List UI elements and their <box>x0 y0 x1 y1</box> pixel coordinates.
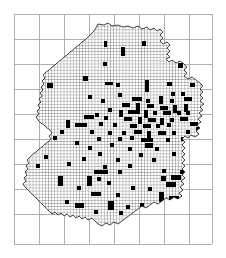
occurrence-cell <box>77 186 81 190</box>
occurrence-cell <box>97 137 101 141</box>
occurrence-cell <box>75 141 79 145</box>
occurrence-cell <box>177 111 181 115</box>
occurrence-cell <box>84 115 94 119</box>
occurrence-cell <box>178 63 183 68</box>
occurrence-cell <box>103 62 107 66</box>
occurrence-cell <box>101 99 105 103</box>
occurrence-cell <box>146 99 150 103</box>
occurrence-cell <box>190 122 198 126</box>
occurrence-cell <box>181 92 185 96</box>
occurrence-cell <box>116 83 120 87</box>
occurrence-cell <box>160 106 168 110</box>
occurrence-cell <box>90 130 94 134</box>
occurrence-cell <box>156 124 160 128</box>
occurrence-cell <box>167 82 172 86</box>
occurrence-cell <box>99 122 103 126</box>
occurrence-cell <box>162 169 166 173</box>
occurrence-cell <box>184 104 188 112</box>
occurrence-cell <box>190 83 195 87</box>
occurrence-cell <box>148 118 156 122</box>
occurrence-cell <box>122 131 126 135</box>
occurrence-cell <box>87 176 92 186</box>
occurrence-cell <box>153 111 157 115</box>
occurrence-cell <box>130 124 137 128</box>
occurrence-cell <box>98 152 102 156</box>
occurrence-cell <box>119 110 123 117</box>
occurrence-cell <box>44 155 48 159</box>
occurrence-cell <box>75 203 84 208</box>
occurrence-cell <box>94 210 98 214</box>
occurrence-cell <box>119 211 123 215</box>
occurrence-cell <box>173 105 177 113</box>
occurrence-cell <box>36 164 40 168</box>
occurrence-cell <box>139 153 143 157</box>
occurrence-cell <box>53 136 57 140</box>
occurrence-cell <box>83 76 88 81</box>
occurrence-cell <box>132 97 142 101</box>
occurrence-cell <box>128 147 132 151</box>
occurrence-cell <box>126 205 130 209</box>
occurrence-cell <box>155 147 159 151</box>
occurrence-cell <box>91 192 101 196</box>
occurrence-cell <box>131 186 135 190</box>
occurrence-cell <box>128 164 132 168</box>
occurrence-cell <box>121 47 125 56</box>
occurrence-cell <box>145 80 149 92</box>
occurrence-cell <box>75 123 87 127</box>
occurrence-cell <box>104 116 108 120</box>
occurrence-cell <box>58 176 63 186</box>
occurrence-cell <box>166 138 170 142</box>
occurrence-cell <box>138 117 142 124</box>
occurrence-cell <box>108 201 114 210</box>
occurrence-cell <box>158 131 166 135</box>
occurrence-cell <box>118 170 122 174</box>
occurrence-cell <box>171 92 175 96</box>
occurrence-cell <box>184 97 192 101</box>
occurrence-cell <box>145 143 153 148</box>
occurrence-cell <box>134 130 142 134</box>
occurrence-cell <box>47 83 53 88</box>
occurrence-cell <box>147 104 154 108</box>
occurrence-cell <box>172 131 176 135</box>
occurrence-cell <box>110 143 114 147</box>
occurrence-cell <box>159 96 163 104</box>
occurrence-cell <box>65 200 69 204</box>
occurrence-cell <box>116 158 120 162</box>
occurrence-cell <box>142 41 146 46</box>
occurrence-cell <box>113 123 117 127</box>
occurrence-cell <box>148 187 152 191</box>
occurrence-cell <box>94 170 108 174</box>
occurrence-cell <box>118 93 122 97</box>
occurrence-cell <box>163 111 171 115</box>
map-canvas <box>0 0 226 258</box>
occurrence-cell <box>186 111 190 115</box>
occurrence-cell <box>97 177 101 181</box>
occurrence-cell <box>130 136 134 140</box>
occurrence-cell <box>172 152 176 156</box>
occurrence-cell <box>152 158 156 162</box>
occurrence-cell <box>104 41 107 47</box>
distribution-map-figure <box>0 0 226 258</box>
occurrence-cell <box>88 95 92 99</box>
occurrence-cell <box>88 146 92 150</box>
occurrence-cell <box>108 131 112 135</box>
occurrence-cell <box>147 131 151 139</box>
occurrence-cell <box>118 137 122 141</box>
occurrence-cell <box>67 162 71 166</box>
occurrence-cell <box>124 117 132 121</box>
occurrence-cell <box>95 113 99 117</box>
occurrence-cell <box>66 120 70 128</box>
occurrence-cell <box>82 157 86 161</box>
occurrence-cell <box>186 130 190 134</box>
occurrence-cell <box>103 165 107 169</box>
occurrence-cell <box>160 118 164 125</box>
occurrence-cell <box>107 181 111 185</box>
occurrence-cell <box>128 110 140 114</box>
occurrence-cell <box>136 103 140 110</box>
occurrence-cell <box>122 103 130 107</box>
occurrence-cell <box>171 175 181 180</box>
occurrence-cell <box>144 110 148 118</box>
occurrence-cell <box>141 138 153 142</box>
occurrence-cell <box>108 108 112 112</box>
occurrence-cell <box>161 176 166 181</box>
